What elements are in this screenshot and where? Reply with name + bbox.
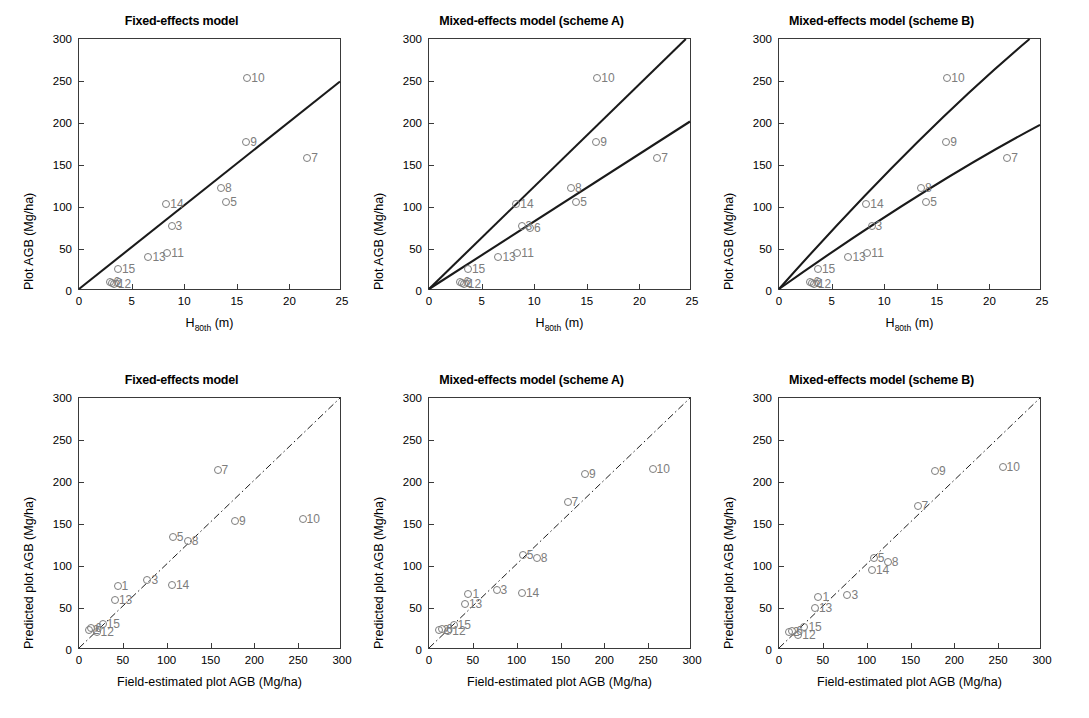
- panel-bottom-scheme-a: Mixed-effects model (scheme A)0501001502…: [350, 359, 713, 718]
- y-axis-tick-label: 0: [66, 285, 72, 297]
- x-axis-tick-label: 100: [857, 654, 876, 666]
- data-point-marker: [1003, 154, 1011, 162]
- x-axis-tick-label: 5: [828, 295, 834, 307]
- x-axis-label: H80th (m): [78, 316, 341, 333]
- data-point-label: 3: [176, 219, 183, 233]
- data-point-marker: [144, 253, 152, 261]
- data-point-marker: [222, 198, 230, 206]
- panel-top-fixed-effects: Fixed-effects model050100150200250300051…: [0, 0, 363, 359]
- y-axis-label: Plot AGB (Mg/ha): [722, 193, 736, 290]
- data-point-marker: [862, 200, 870, 208]
- data-point-marker: [868, 566, 876, 574]
- y-axis-label: Predicted plot AGB (Mg/ha): [22, 497, 36, 649]
- data-point-label: 8: [925, 181, 932, 195]
- y-axis-label: Predicted plot AGB (Mg/ha): [372, 497, 386, 649]
- data-point-marker: [811, 604, 819, 612]
- y-axis-label: Plot AGB (Mg/ha): [22, 193, 36, 290]
- x-axis-tick-label: 50: [466, 654, 479, 666]
- data-point-marker: [494, 253, 502, 261]
- data-point-marker: [931, 467, 939, 475]
- x-axis-label: H80th (m): [428, 316, 691, 333]
- y-axis-tick-label: 250: [403, 75, 422, 87]
- line-scheme-a-lower: [429, 122, 690, 290]
- data-point-marker: [814, 593, 822, 601]
- data-point-marker: [649, 465, 657, 473]
- x-axis-tick-label: 25: [686, 295, 699, 307]
- y-axis-tick-label: 200: [403, 117, 422, 129]
- figure-panel-grid: Fixed-effects model050100150200250300051…: [0, 0, 1089, 718]
- y-axis-tick-label: 150: [403, 518, 422, 530]
- data-point-label: 12: [468, 277, 481, 291]
- data-point-label: 15: [822, 262, 835, 276]
- x-axis-tick-label: 100: [157, 654, 176, 666]
- data-point-marker: [868, 222, 876, 230]
- data-point-label: 13: [819, 601, 832, 615]
- data-point-label: 3: [151, 573, 158, 587]
- data-point-marker: [168, 222, 176, 230]
- plot-area: 0501001502002503000501001502002503002612…: [778, 397, 1041, 649]
- y-axis-tick-label: 100: [403, 560, 422, 572]
- data-point-marker: [169, 533, 177, 541]
- data-point-label: 3: [851, 588, 858, 602]
- y-axis-tick-label: 250: [403, 434, 422, 446]
- data-point-label: 15: [107, 617, 120, 631]
- y-axis-tick-label: 300: [753, 392, 772, 404]
- plot-area: 0501001502002503000510152025261215131114…: [778, 38, 1041, 290]
- x-axis-tick-label: 200: [595, 654, 614, 666]
- y-axis-tick-label: 150: [753, 159, 772, 171]
- y-axis-tick-label: 0: [66, 644, 72, 656]
- data-point-marker: [917, 184, 925, 192]
- data-point-marker: [653, 154, 661, 162]
- data-point-label: 13: [119, 593, 132, 607]
- y-axis-tick-label: 0: [766, 285, 772, 297]
- x-axis-tick-label: 10: [178, 295, 191, 307]
- y-axis-label: Predicted plot AGB (Mg/ha): [722, 497, 736, 649]
- data-point-marker: [810, 280, 818, 288]
- data-point-marker: [592, 138, 600, 146]
- data-point-marker: [572, 198, 580, 206]
- x-axis-tick-label: 200: [945, 654, 964, 666]
- data-point-label: 10: [307, 512, 320, 526]
- data-point-label: 10: [601, 71, 614, 85]
- x-axis-tick-label: 25: [1036, 295, 1049, 307]
- data-point-label: 9: [939, 464, 946, 478]
- x-axis-tick-label: 150: [201, 654, 220, 666]
- data-point-label: 5: [177, 530, 184, 544]
- x-axis-label: Field-estimated plot AGB (Mg/ha): [78, 675, 341, 689]
- data-point-marker: [581, 470, 589, 478]
- data-point-label: 8: [225, 181, 232, 195]
- data-point-marker: [800, 623, 808, 631]
- data-point-marker: [814, 265, 822, 273]
- data-point-marker: [111, 596, 119, 604]
- x-axis-tick-label: 300: [1032, 654, 1051, 666]
- data-point-label: 8: [575, 181, 582, 195]
- y-axis-tick-label: 0: [416, 644, 422, 656]
- data-point-label: 15: [122, 262, 135, 276]
- plot-area: 0501001502002503000501001502002503002612…: [428, 397, 691, 649]
- y-axis-tick-label: 50: [759, 243, 772, 255]
- data-point-marker: [942, 138, 950, 146]
- y-axis-tick-label: 100: [753, 201, 772, 213]
- data-point-marker: [922, 198, 930, 206]
- y-axis-tick-label: 100: [753, 560, 772, 572]
- data-point-marker: [242, 138, 250, 146]
- data-point-label: 8: [192, 534, 199, 548]
- x-axis-tick-label: 15: [930, 295, 943, 307]
- x-axis-tick-label: 10: [528, 295, 541, 307]
- x-axis-tick-label: 0: [776, 295, 782, 307]
- data-point-label: 7: [1011, 151, 1018, 165]
- x-axis-tick-label: 250: [989, 654, 1008, 666]
- data-point-label: 1: [122, 579, 129, 593]
- data-point-marker: [184, 537, 192, 545]
- x-axis-tick-label: 0: [426, 295, 432, 307]
- x-axis-tick-label: 5: [478, 295, 484, 307]
- y-axis-tick-label: 200: [753, 117, 772, 129]
- data-point-marker: [999, 463, 1007, 471]
- data-point-marker: [460, 280, 468, 288]
- y-axis-tick-label: 200: [753, 476, 772, 488]
- data-point-label: 10: [251, 71, 264, 85]
- y-axis-tick-label: 250: [753, 434, 772, 446]
- line-one-to-one: [79, 398, 340, 648]
- data-point-label: 8: [892, 555, 899, 569]
- data-point-marker: [93, 628, 101, 636]
